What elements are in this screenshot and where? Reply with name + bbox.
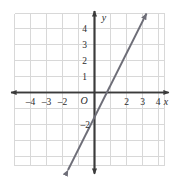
coordinate-plane-figure: –4 –3 –2 2 3 4 4 3 2 1 –2 O x y [0, 0, 178, 179]
grid-lines [15, 14, 165, 166]
x-tick-label-3: 3 [140, 97, 145, 107]
x-tick-label--3: –3 [41, 97, 52, 107]
y-axis-label: y [101, 12, 107, 23]
y-tick-label-1: 1 [82, 72, 87, 82]
y-tick-label-3: 3 [82, 40, 87, 50]
y-tick-label-4: 4 [82, 24, 87, 34]
x-axis-label: x [163, 96, 169, 107]
x-tick-label--2: –2 [57, 97, 68, 107]
y-tick-label--2: –2 [80, 120, 91, 130]
x-tick-label-4: 4 [156, 97, 161, 107]
y-tick-label-2: 2 [82, 56, 87, 66]
origin-label: O [80, 95, 87, 106]
x-tick-label-2: 2 [124, 97, 129, 107]
x-tick-label--4: –4 [25, 97, 36, 107]
graph-canvas: –4 –3 –2 2 3 4 4 3 2 1 –2 O x y [0, 0, 178, 179]
